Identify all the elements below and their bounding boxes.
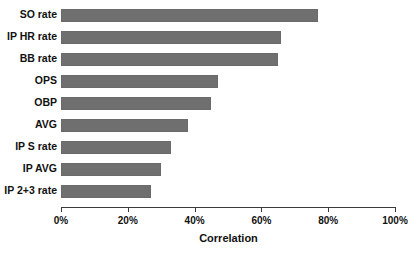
x-axis-right-cap (395, 207, 396, 212)
x-axis-tick (195, 207, 196, 212)
bar-category-label: AVG (0, 118, 57, 131)
bar-category-label: IP S rate (0, 140, 57, 153)
bar-category-label: SO rate (0, 8, 57, 21)
x-axis-tick (328, 207, 329, 212)
x-axis-tick-label: 40% (165, 215, 225, 226)
table-row: IP S rate (0, 141, 420, 154)
bar (61, 119, 188, 132)
table-row: IP 2+3 rate (0, 185, 420, 198)
bar (61, 185, 151, 198)
x-axis-tick-label: 0% (31, 215, 91, 226)
table-row: IP HR rate (0, 31, 420, 44)
x-axis-tick-label: 100% (365, 215, 420, 226)
bar (61, 31, 281, 44)
x-axis-title: Correlation (61, 232, 396, 244)
table-row: OPS (0, 75, 420, 88)
table-row: AVG (0, 119, 420, 132)
x-axis-tick (128, 207, 129, 212)
x-axis-left-cap (61, 207, 62, 212)
bar (61, 53, 278, 66)
bar-category-label: IP AVG (0, 162, 57, 175)
bar (61, 97, 211, 110)
x-axis-tick-label: 20% (98, 215, 158, 226)
bar (61, 9, 318, 22)
x-axis-tick-label: 60% (231, 215, 291, 226)
bar (61, 75, 218, 88)
bar (61, 163, 161, 176)
table-row: BB rate (0, 53, 420, 66)
bar-category-label: OPS (0, 74, 57, 87)
x-axis-tick-label: 80% (298, 215, 358, 226)
table-row: SO rate (0, 9, 420, 22)
bar-category-label: IP 2+3 rate (0, 184, 57, 197)
bar-category-label: IP HR rate (0, 30, 57, 43)
x-axis-tick (261, 207, 262, 212)
table-row: OBP (0, 97, 420, 110)
correlation-bar-chart: SO rateIP HR rateBB rateOPSOBPAVGIP S ra… (0, 0, 420, 260)
x-axis-line (61, 207, 396, 208)
table-row: IP AVG (0, 163, 420, 176)
bar-category-label: OBP (0, 96, 57, 109)
bar (61, 141, 171, 154)
bar-category-label: BB rate (0, 52, 57, 65)
